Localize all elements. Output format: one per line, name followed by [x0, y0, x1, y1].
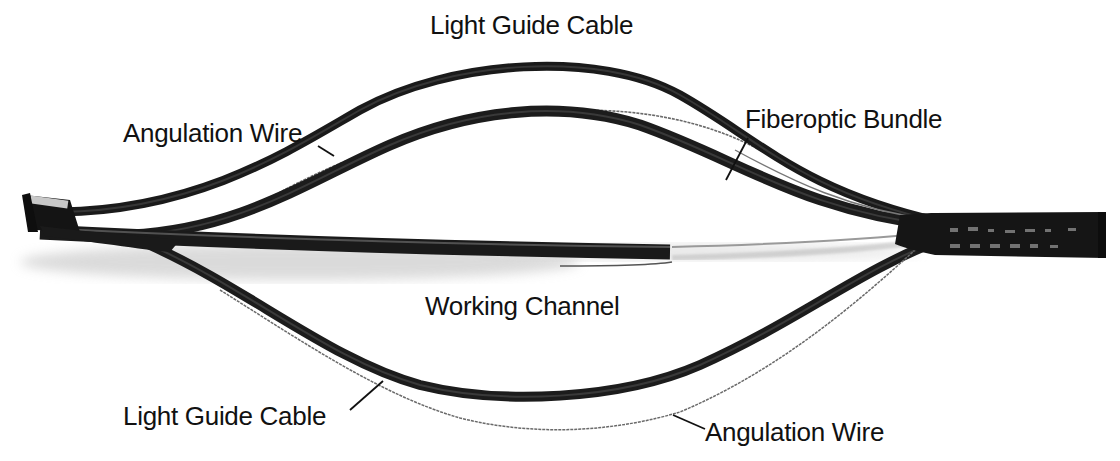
leader-light-guide-cable-bottom	[350, 381, 383, 410]
label-working-channel: Working Channel	[425, 291, 619, 321]
label-angulation-wire-top: Angulation Wire	[123, 118, 302, 148]
proximal-sheath	[895, 212, 1106, 258]
label-fiberoptic-bundle: Fiberoptic Bundle	[745, 104, 942, 134]
label-light-guide-cable-top: Light Guide Cable	[430, 10, 633, 40]
label-light-guide-cable-bottom: Light Guide Cable	[123, 401, 326, 431]
leader-angulation-wire-top	[318, 146, 334, 156]
leader-lines	[318, 138, 748, 429]
leader-angulation-wire-bottom	[673, 415, 705, 429]
endoscope-diagram: Light Guide Cable Angulation Wire Fibero…	[0, 0, 1120, 461]
label-angulation-wire-bottom: Angulation Wire	[705, 417, 884, 447]
cables-illustration	[0, 0, 1120, 461]
